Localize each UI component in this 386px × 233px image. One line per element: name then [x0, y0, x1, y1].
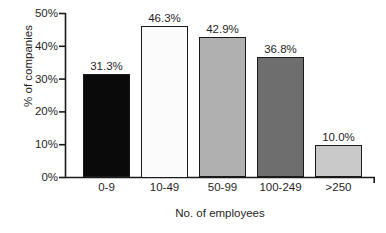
bar-value-10-49: 46.3% — [135, 12, 194, 24]
bar-100-249 — [257, 57, 304, 178]
bar-value-50-99: 42.9% — [193, 23, 252, 35]
x-tick-label-10-49: 10-49 — [134, 181, 195, 193]
y-tick-label-0: 0% — [12, 172, 58, 184]
x-tick-label-over-250: >250 — [308, 181, 369, 193]
y-tick-label-40: 40% — [12, 41, 58, 53]
chart-title-cropped — [40, 0, 340, 2]
bar-10-49 — [141, 26, 188, 178]
x-tick-label-0-9: 0-9 — [76, 181, 137, 193]
y-tick-label-10: 10% — [12, 139, 58, 151]
y-axis-title: % of companies — [22, 0, 34, 141]
bar-value-over-250: 10.0% — [309, 131, 368, 143]
y-tick-label-30: 30% — [12, 74, 58, 86]
x-tick-label-50-99: 50-99 — [192, 181, 253, 193]
y-tick-label-20: 20% — [12, 106, 58, 118]
bar-50-99 — [199, 37, 246, 178]
bar-0-9 — [83, 74, 130, 177]
bar-value-100-249: 36.8% — [251, 43, 310, 55]
bar-chart: % of companies 50% 40% 30% 20% 10% 0% 31… — [0, 0, 386, 233]
y-tick-label-50: 50% — [12, 8, 58, 20]
bar-value-0-9: 31.3% — [77, 60, 136, 72]
x-tick-label-100-249: 100-249 — [250, 181, 311, 193]
x-axis-title: No. of employees — [65, 207, 375, 219]
bar-over-250 — [315, 145, 362, 178]
